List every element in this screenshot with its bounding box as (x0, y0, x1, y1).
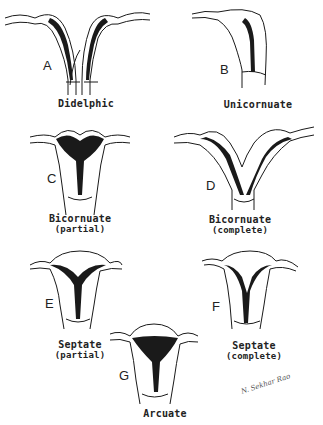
anomaly-qualifier: (complete) (205, 225, 275, 235)
figure-arcuate: G (110, 320, 220, 410)
figure-didelphic: A Didelphic (0, 0, 170, 115)
artist-signature: N. Sekhar Rao (240, 372, 291, 395)
figure-letter: F (212, 299, 220, 314)
anomaly-qualifier: (partial) (45, 224, 115, 234)
figure-caption: Unicornuate (220, 100, 296, 110)
anomaly-name: Bicornuate (45, 214, 115, 224)
anomaly-name: Septate (45, 340, 115, 350)
figure-letter: A (43, 58, 52, 73)
figure-bicornuate-complete: D Bicornuate (complete) (170, 115, 323, 245)
figure-caption-septate-complete: Septate (complete) (219, 341, 289, 361)
anomaly-name: Bicornuate (205, 215, 275, 225)
figure-letter: D (206, 178, 215, 193)
anomaly-name: Arcuate (143, 408, 187, 419)
figure-letter: G (119, 368, 129, 383)
anomaly-name: Didelphic (58, 98, 114, 109)
arcuate-uterus-illustration (110, 320, 220, 410)
figure-caption-septate-partial: Septate (partial) (45, 340, 115, 360)
figure-caption: Didelphic (56, 99, 116, 109)
figure-letter: E (45, 296, 54, 311)
unicornuate-uterus-illustration (170, 0, 323, 115)
anomaly-qualifier: (complete) (219, 351, 289, 361)
anomaly-name: Unicornuate (224, 99, 292, 110)
anomaly-qualifier: (partial) (45, 350, 115, 360)
figure-unicornuate: B Unicornuate (170, 0, 323, 115)
figure-letter: C (47, 171, 56, 186)
figure-bicornuate-partial: C Bicornuate (partial) (0, 115, 170, 245)
figure-caption-arcuate: Arcuate (135, 409, 195, 419)
figure-caption: Bicornuate (partial) (45, 214, 115, 234)
anomaly-name: Septate (219, 341, 289, 351)
figure-caption: Bicornuate (complete) (205, 215, 275, 235)
figure-letter: B (220, 62, 229, 77)
